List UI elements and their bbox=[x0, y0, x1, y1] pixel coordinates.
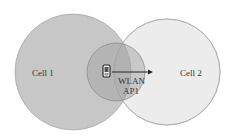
wlan-label-line2: AP1 bbox=[123, 86, 139, 96]
wlan-label-line1: WLAN bbox=[118, 76, 145, 86]
mobile-device-icon bbox=[103, 65, 110, 77]
cell-2-label: Cell 2 bbox=[180, 68, 202, 78]
cell-wlan-diagram: Cell 1 Cell 2 WLAN AP1 bbox=[0, 0, 233, 138]
cell-1-label: Cell 1 bbox=[32, 68, 54, 78]
